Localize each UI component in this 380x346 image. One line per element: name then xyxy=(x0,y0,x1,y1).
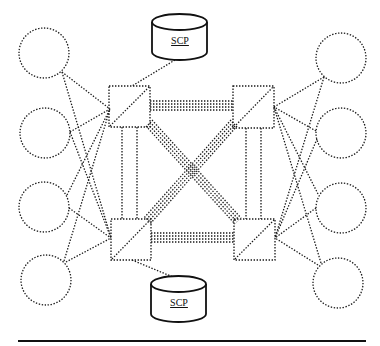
trunk-top xyxy=(150,101,233,110)
left-access-links xyxy=(62,72,111,262)
trunk-bottom xyxy=(151,233,234,242)
link-left1-swBL xyxy=(62,72,111,238)
endpoint-left-1[interactable] xyxy=(19,28,69,78)
switch-top-right[interactable] xyxy=(233,86,274,128)
link-left1-swTL xyxy=(62,72,110,109)
scp-bottom[interactable]: SCP xyxy=(151,276,206,322)
scp-top[interactable]: SCP xyxy=(152,14,207,60)
switches xyxy=(109,86,275,260)
left-endpoints xyxy=(19,28,71,305)
link-left4-swBL xyxy=(66,238,111,262)
right-endpoints xyxy=(313,33,366,308)
link-left2-swBL xyxy=(70,132,111,238)
endpoint-right-3[interactable] xyxy=(316,183,366,233)
network-diagram: SCP SCP xyxy=(0,0,380,346)
endpoint-right-1[interactable] xyxy=(316,33,366,83)
trunk-left xyxy=(122,127,137,219)
endpoint-left-3[interactable] xyxy=(19,182,69,232)
endpoint-right-4[interactable] xyxy=(313,258,363,308)
switch-bottom-right[interactable] xyxy=(234,219,275,260)
scp-bottom-label: SCP xyxy=(170,297,188,308)
endpoint-right-2[interactable] xyxy=(316,108,366,158)
right-access-links xyxy=(274,77,324,265)
switch-top-left[interactable] xyxy=(109,86,150,127)
endpoint-left-4[interactable] xyxy=(21,255,71,305)
link-scp-top-swTL xyxy=(132,60,175,86)
link-right4-swBR xyxy=(275,238,318,265)
link-right3-swTR xyxy=(274,107,318,194)
link-right1-swTR xyxy=(274,77,324,107)
switch-diagonal-icon xyxy=(235,220,274,259)
trunk-right xyxy=(246,128,261,219)
switch-diagonal-icon xyxy=(110,87,149,126)
switch-diagonal-icon xyxy=(234,87,273,127)
endpoint-left-2[interactable] xyxy=(20,108,70,158)
switch-diagonal-icon xyxy=(112,220,150,259)
trunk-diag-tl-br xyxy=(146,120,241,224)
trunk-links xyxy=(122,101,261,242)
link-scp-bottom-swBL xyxy=(132,260,173,277)
scp-top-label: SCP xyxy=(171,35,189,46)
scp-links xyxy=(132,60,175,277)
switch-bottom-left[interactable] xyxy=(111,219,151,260)
